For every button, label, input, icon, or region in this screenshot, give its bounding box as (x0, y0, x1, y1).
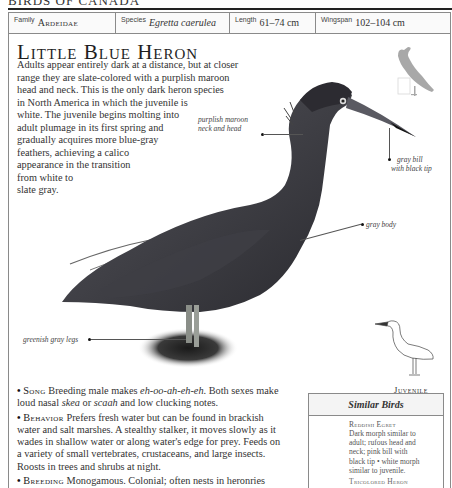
text: adult; rufous head and (349, 438, 444, 447)
call-text: skea (62, 397, 80, 408)
annotation-line: gray body (366, 220, 396, 229)
leader-dot (361, 223, 364, 226)
call-text: scaah (94, 397, 118, 408)
species-label: Species (121, 16, 146, 23)
intro-line: in North America in which the juvenile i… (17, 97, 267, 110)
family-label: Family (14, 16, 35, 23)
intro-line: feathers, achieving a calico (17, 147, 267, 160)
intro-line: appearance in the transition (17, 159, 267, 172)
species-value: Egretta caerulea (149, 17, 216, 28)
intro-line: head and neck. This is the only dark her… (17, 84, 267, 97)
text: Roosts in trees and shrubs at night. (17, 461, 307, 473)
intro-line: range they are slate-colored with a purp… (17, 72, 267, 85)
annotation-line: neck and head (198, 124, 248, 133)
behavior-heading: Behavior (23, 412, 64, 423)
wingspan-value: 102–104 cm (355, 17, 405, 28)
similar-bird-name: Reddish Egret (349, 420, 396, 429)
text: Breeding male makes (48, 385, 140, 396)
length-value: 61–74 cm (259, 17, 299, 28)
text: black tip • white morph (349, 457, 444, 466)
running-rule (8, 8, 452, 10)
leader-line (263, 134, 303, 135)
annotation-line: purplish maroon (198, 115, 248, 124)
intro-line: from white to (17, 172, 267, 185)
text: similar to juvenile. (349, 466, 444, 475)
text: wades in shallow water or along water's … (17, 436, 307, 448)
similar-bird-item: Reddish Egret Dark morph similar to adul… (309, 416, 443, 474)
breeding-heading: Breeding (23, 475, 64, 486)
similar-birds-heading: Similar Birds (309, 394, 443, 416)
text: Prefers fresh water but can be found in … (66, 412, 263, 423)
song-heading: Song (23, 385, 46, 396)
annotation-bill: gray bill with black tip (391, 155, 432, 173)
text: Dark morph similar to (349, 429, 444, 438)
leader-line (389, 128, 390, 158)
behavior-section: • Behavior Prefers fresh water but can b… (17, 412, 307, 473)
text: or (80, 397, 94, 408)
text: Monogamous. Colonial; often nests in her… (67, 475, 265, 486)
annotation-body: gray body (366, 220, 396, 229)
family-value: Ardeidae (38, 17, 78, 28)
annotation-line: greenish gray legs (23, 335, 78, 344)
fact-species: Species Egretta caerulea (116, 13, 230, 33)
fact-family: Family Ardeidae (9, 13, 116, 33)
similar-birds-box: Similar Birds Reddish Egret Dark morph s… (308, 393, 444, 488)
breeding-section: • Breeding Monogamous. Colonial; often n… (17, 475, 307, 487)
similar-bird-name: Tricolored Heron (349, 477, 408, 486)
text: water and salt marshes. A stealthy stalk… (17, 424, 307, 436)
length-label: Length (235, 16, 256, 23)
annotation-legs: greenish gray legs (23, 335, 78, 344)
song-section: • Song Breeding male makes eh-oo-ah-eh-e… (17, 385, 307, 410)
text: loud nasal (17, 397, 62, 408)
facts-bar: Family Ardeidae Species Egretta caerulea… (8, 12, 451, 34)
intro-line: Adults appear entirely dark at a distanc… (17, 59, 267, 72)
species-details: • Song Breeding male makes eh-oo-ah-eh-e… (17, 385, 307, 488)
leader-line (91, 339, 186, 340)
annotation-line: gray bill (391, 155, 432, 164)
leader-dot (388, 158, 391, 161)
intro-line: slate gray. (17, 184, 267, 197)
call-text: eh-oo-ah-eh-eh (140, 385, 203, 396)
wingspan-label: Wingspan (321, 16, 352, 23)
text: . Both sexes make (204, 385, 279, 396)
fact-wingspan: Wingspan 102–104 cm (316, 13, 450, 33)
text: a variety of small vertebrates, crustace… (17, 448, 307, 460)
text: and low clucking notes. (118, 397, 218, 408)
text: neck; pink bill with (349, 447, 444, 456)
similar-bird-description: Dark morph similar to adult; rufous head… (349, 429, 444, 475)
annotation-line: with black tip (391, 164, 432, 173)
fact-length: Length 61–74 cm (230, 13, 316, 33)
annotation-neck-head: purplish maroon neck and head (198, 115, 248, 133)
intro-line: gradually acquires more blue-gray (17, 134, 267, 147)
